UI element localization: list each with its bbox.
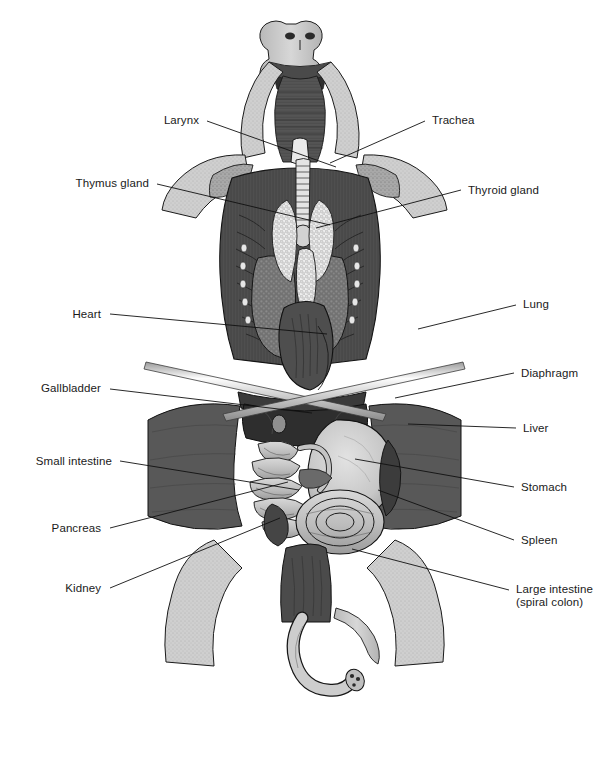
leader-line-larynx: [207, 121, 336, 167]
anatomy-figure: LarynxThymus glandHeartGallbladderSmall …: [0, 0, 609, 781]
label-diaphragm: Diaphragm: [521, 367, 578, 380]
leader-line-large-intestine: [352, 549, 509, 590]
label-heart: Heart: [72, 308, 101, 321]
label-trachea: Trachea: [432, 114, 474, 127]
leader-line-trachea: [330, 121, 425, 163]
leader-line-thyroid-gland: [316, 190, 461, 228]
label-kidney: Kidney: [65, 582, 101, 595]
label-pancreas: Pancreas: [52, 522, 101, 535]
label-stomach: Stomach: [521, 481, 567, 494]
leader-line-kidney: [110, 518, 280, 588]
label-thymus-gland: Thymus gland: [76, 177, 149, 190]
label-gallbladder: Gallbladder: [41, 382, 101, 395]
leader-line-thymus-gland: [157, 184, 330, 225]
label-larynx: Larynx: [164, 114, 199, 127]
leader-line-stomach: [355, 459, 514, 487]
leader-line-pancreas: [110, 482, 288, 528]
leader-line-lung: [418, 305, 516, 329]
leader-line-spleen: [378, 490, 514, 540]
label-liver: Liver: [523, 422, 548, 435]
label-spleen: Spleen: [521, 534, 557, 547]
label-lung: Lung: [523, 298, 549, 311]
leader-line-diaphragm: [395, 373, 514, 398]
label-small-intestine: Small intestine: [36, 455, 112, 468]
leader-line-heart: [110, 314, 327, 334]
leader-line-gallbladder: [110, 389, 312, 413]
leader-line-liver: [408, 424, 516, 428]
label-thyroid-gland: Thyroid gland: [468, 184, 539, 197]
label-large-intestine: Large intestine (spiral colon): [516, 583, 593, 609]
